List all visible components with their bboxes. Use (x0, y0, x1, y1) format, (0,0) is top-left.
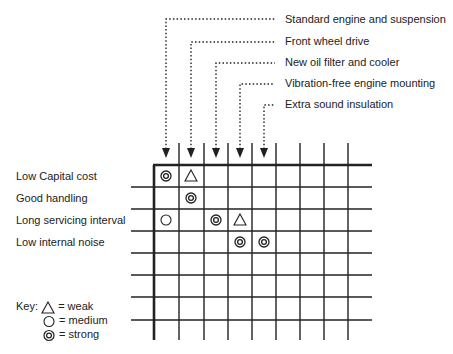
key-medium: = medium (42, 314, 108, 328)
key-title: Key: (16, 300, 38, 312)
double-circle-icon (42, 329, 56, 342)
column-label-standard-engine: Standard engine and suspension (285, 13, 446, 26)
column-label-sound-insulation: Extra sound insulation (285, 98, 393, 111)
key-weak-text: = weak (58, 300, 93, 312)
row-label-low-capital-cost: Low Capital cost (16, 170, 97, 183)
column-label-engine-mounting: Vibration-free engine mounting (285, 77, 435, 90)
column-label-front-wheel-drive: Front wheel drive (285, 35, 369, 48)
row-label-low-internal-noise: Low internal noise (16, 236, 105, 249)
column-leader-lines (162, 19, 275, 158)
matrix-grid (131, 143, 372, 340)
key-weak: Key: = weak (16, 300, 93, 314)
row-label-good-handling: Good handling (16, 192, 88, 205)
circle-icon (42, 315, 56, 328)
key-strong: = strong (42, 328, 99, 342)
key-medium-text: = medium (59, 314, 108, 326)
key-strong-text: = strong (59, 328, 99, 340)
column-label-oil-filter: New oil filter and cooler (285, 56, 399, 69)
triangle-icon (41, 301, 55, 314)
row-label-long-servicing-interval: Long servicing interval (16, 214, 125, 227)
